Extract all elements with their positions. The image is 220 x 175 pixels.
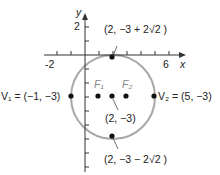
point-v1 [68, 93, 73, 98]
x-axis-label: x [179, 58, 186, 70]
leader-center [113, 99, 118, 110]
label-top: (2, −3 + 2√2 ) [104, 23, 167, 35]
label-f2: F₂ [122, 78, 132, 90]
point-f1 [95, 93, 100, 98]
label-f1: F₁ [94, 78, 104, 90]
point-top [109, 54, 114, 59]
y-axis-label: y [75, 6, 82, 18]
label-v2: V₂ = (5, −3) [158, 90, 212, 102]
point-bottom [109, 133, 114, 138]
x-ticks [57, 51, 169, 55]
point-f2 [123, 93, 128, 98]
graph: y 2 -2 6 x (2, −3 + 2√2 ) (2, −3) (2, −3… [0, 0, 220, 175]
label-v1: V₁ = (−1, −3) [1, 90, 60, 102]
y-axis-arrow-icon [82, 13, 88, 20]
y-tick-2: 2 [74, 20, 80, 32]
y-ticks [85, 27, 89, 167]
label-center: (2, −3) [105, 112, 136, 124]
point-v2 [151, 93, 156, 98]
x-tick-6: 6 [163, 58, 169, 70]
x-tick-neg2: -2 [45, 58, 54, 70]
point-center [109, 93, 114, 98]
label-bottom: (2, −3 − 2√2 ) [104, 153, 167, 165]
